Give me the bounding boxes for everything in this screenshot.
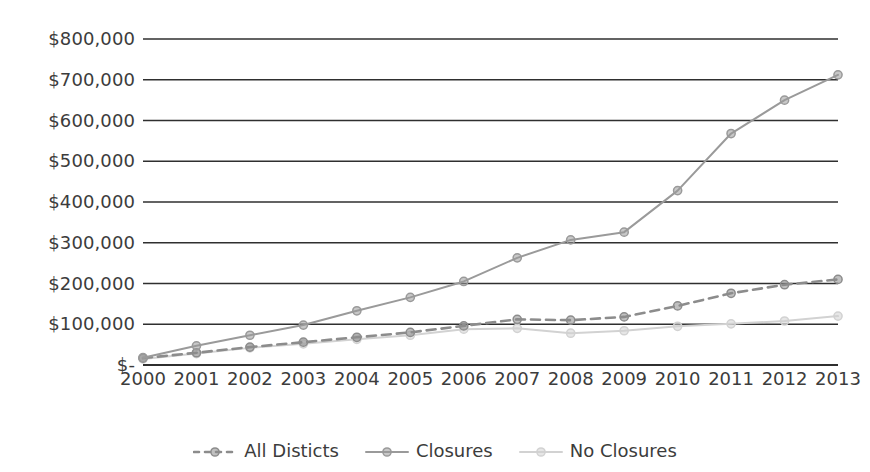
- legend-marker-closures: [365, 444, 409, 458]
- series-line: [143, 75, 838, 358]
- data-point: [727, 320, 735, 328]
- y-axis: $-$100,000$200,000$300,000$400,000$500,0…: [10, 0, 135, 400]
- y-axis-tick-label: $100,000: [15, 315, 135, 333]
- x-axis-tick-label: 2009: [594, 368, 654, 390]
- data-point: [567, 329, 575, 337]
- data-point: [406, 328, 414, 336]
- data-point: [567, 236, 575, 244]
- data-point: [727, 289, 735, 297]
- x-axis-tick-label: 2012: [755, 368, 815, 390]
- legend-marker-no-closures: [519, 444, 563, 458]
- x-axis-tick-label: 2006: [434, 368, 494, 390]
- series-closures: [139, 71, 842, 362]
- x-axis-tick-label: 2004: [327, 368, 387, 390]
- x-axis: 2000200120022003200420052006200720082009…: [0, 368, 870, 398]
- y-axis-tick-label: $700,000: [15, 71, 135, 89]
- gridlines: [143, 39, 838, 365]
- x-axis-tick-label: 2008: [541, 368, 601, 390]
- x-axis-tick-label: 2005: [380, 368, 440, 390]
- series-layer: [139, 71, 842, 363]
- data-point: [192, 342, 200, 350]
- data-point: [406, 293, 414, 301]
- y-axis-tick-label: $400,000: [15, 193, 135, 211]
- data-point: [246, 343, 254, 351]
- x-axis-tick-label: 2001: [166, 368, 226, 390]
- data-point: [620, 327, 628, 335]
- series-no-closures: [139, 312, 842, 363]
- legend-marker-all-disticts: [193, 444, 237, 458]
- data-point: [513, 254, 521, 262]
- y-axis-tick-label: $200,000: [15, 275, 135, 293]
- legend-item[interactable]: Closures: [365, 442, 493, 460]
- data-point: [353, 333, 361, 341]
- legend-label: No Closures: [570, 442, 677, 460]
- legend-label: Closures: [416, 442, 493, 460]
- data-point: [620, 313, 628, 321]
- data-point: [139, 354, 147, 362]
- data-point: [513, 324, 521, 332]
- plot-area: $-$100,000$200,000$300,000$400,000$500,0…: [0, 0, 870, 400]
- data-point: [780, 281, 788, 289]
- x-axis-tick-label: 2002: [220, 368, 280, 390]
- data-point: [834, 71, 842, 79]
- data-point: [674, 322, 682, 330]
- data-point: [834, 312, 842, 320]
- data-point: [460, 277, 468, 285]
- chart-legend: All DistictsClosuresNo Closures: [0, 436, 870, 466]
- y-axis-tick-label: $800,000: [15, 30, 135, 48]
- legend-item[interactable]: All Disticts: [193, 442, 339, 460]
- data-point: [780, 317, 788, 325]
- data-point: [620, 228, 628, 236]
- x-axis-tick-label: 2010: [648, 368, 708, 390]
- line-chart: $-$100,000$200,000$300,000$400,000$500,0…: [0, 0, 870, 472]
- data-point: [674, 302, 682, 310]
- x-axis-tick-label: 2000: [113, 368, 173, 390]
- x-axis-tick-label: 2007: [487, 368, 547, 390]
- legend-label: All Disticts: [244, 442, 339, 460]
- y-axis-tick-label: $300,000: [15, 234, 135, 252]
- data-point: [460, 322, 468, 330]
- x-axis-tick-label: 2003: [273, 368, 333, 390]
- data-point: [780, 96, 788, 104]
- x-axis-tick-label: 2013: [808, 368, 868, 390]
- data-point: [299, 321, 307, 329]
- data-point: [246, 331, 254, 339]
- x-axis-tick-label: 2011: [701, 368, 761, 390]
- data-point: [299, 338, 307, 346]
- data-point: [513, 315, 521, 323]
- data-point: [674, 186, 682, 194]
- data-point: [567, 316, 575, 324]
- data-point: [353, 307, 361, 315]
- y-axis-tick-label: $600,000: [15, 112, 135, 130]
- legend-item[interactable]: No Closures: [519, 442, 677, 460]
- y-axis-tick-label: $500,000: [15, 152, 135, 170]
- data-point: [727, 129, 735, 137]
- data-point: [834, 275, 842, 283]
